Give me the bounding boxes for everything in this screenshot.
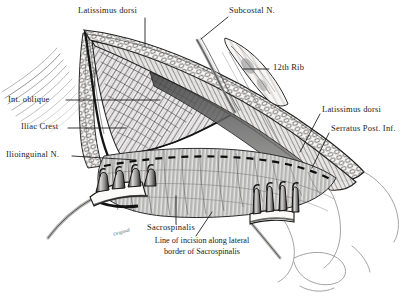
- label-serratus-posterior-inferior: Serratus Post. Inf.: [331, 123, 396, 133]
- label-iliac-crest: Iliac Crest: [21, 121, 58, 131]
- leader-subcostal: [201, 17, 228, 39]
- skin-fat-flap-left: [2, 48, 80, 132]
- label-subcostal-nerve: Subcostal N.: [229, 5, 275, 15]
- label-latissimus-dorsi-top: Latissimus dorsi: [78, 5, 137, 15]
- incision-caption-line2: border of Sacrospinalis: [112, 247, 292, 258]
- label-twelfth-rib: 12th Rib: [273, 62, 304, 72]
- incision-caption-line1: Line of incision along lateral: [112, 236, 292, 247]
- label-latissimus-dorsi-right: Latissimus dorsi: [322, 104, 381, 114]
- label-internal-oblique: Int. oblique: [8, 94, 50, 104]
- anatomical-illustration: Latissimus dorsi Subcostal N. 12th Rib I…: [0, 0, 415, 304]
- illustration-canvas: [0, 0, 415, 304]
- label-ilioinguinal-nerve: Ilioinguinal N.: [6, 149, 59, 159]
- label-sacrospinalis: Sacrospinalis: [147, 222, 195, 232]
